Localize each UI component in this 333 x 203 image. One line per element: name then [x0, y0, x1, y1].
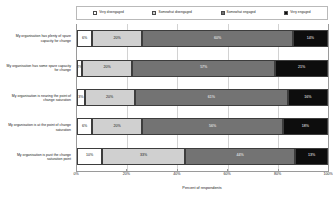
bar-segment[interactable]: 20% — [82, 60, 132, 77]
x-tick-label: 20% — [123, 172, 130, 176]
bar-segment-value-label: 20% — [114, 37, 121, 41]
legend-item[interactable]: Somewhat disengaged — [152, 11, 191, 15]
bar-row: 6%20%60%14% — [77, 30, 328, 47]
bar-segment-value-label: 6% — [82, 125, 87, 129]
stacked-bar-chart: Very disengagedSomewhat disengagedSomewh… — [0, 0, 333, 203]
bar-segment-value-label: 33% — [140, 154, 147, 158]
bar-segment[interactable]: 56% — [142, 118, 283, 135]
legend-label: Very engaged — [290, 11, 310, 14]
bar-segment[interactable]: 44% — [185, 148, 295, 165]
bar-segment-value-label: 60% — [214, 37, 221, 41]
bar-segment-value-label: 18% — [302, 125, 309, 129]
x-axis-title: Percent of respondents — [76, 186, 328, 190]
chart-legend: Very disengagedSomewhat disengagedSomewh… — [76, 6, 328, 20]
bar-segment-value-label: 21% — [298, 66, 305, 70]
bar-segment[interactable]: 10% — [77, 148, 102, 165]
category-label: My organisation has some spare capacity … — [2, 60, 74, 77]
bar-segment-value-label: 14% — [307, 37, 314, 41]
bar-segment[interactable]: 16% — [288, 89, 328, 106]
x-tick-label: 40% — [173, 172, 180, 176]
bar-rows: 6%20%60%14%2%20%57%21%3%20%61%16%6%20%56… — [77, 24, 328, 171]
category-axis-labels: My organisation has plenty of spare capa… — [2, 24, 74, 172]
category-label: My organisation is at the point of chang… — [2, 119, 74, 136]
bar-segment[interactable]: 6% — [77, 30, 92, 47]
bar-segment[interactable]: 20% — [85, 89, 135, 106]
bar-segment[interactable]: 33% — [102, 148, 185, 165]
bar-segment-value-label: 57% — [200, 66, 207, 70]
legend-swatch-icon — [93, 11, 97, 15]
bar-segment-value-label: 20% — [106, 96, 113, 100]
bar-segment-value-label: 13% — [308, 154, 315, 158]
bar-segment-value-label: 61% — [208, 96, 215, 100]
legend-item[interactable]: Very engaged — [284, 11, 310, 15]
bar-segment[interactable]: 18% — [283, 118, 328, 135]
x-tick-label: 0% — [73, 172, 78, 176]
bar-segment[interactable]: 61% — [135, 89, 288, 106]
category-label: My organisation is past the change satur… — [2, 149, 74, 166]
x-tick-label: 60% — [224, 172, 231, 176]
gridline — [328, 24, 329, 171]
x-tick-label: 100% — [323, 172, 332, 176]
bar-segment[interactable]: 20% — [92, 30, 142, 47]
legend-swatch-icon — [152, 11, 156, 15]
bar-segment[interactable]: 57% — [132, 60, 275, 77]
bar-segment-value-label: 56% — [209, 125, 216, 129]
bar-row: 10%33%44%13% — [77, 148, 328, 165]
bar-segment[interactable]: 14% — [293, 30, 328, 47]
legend-label: Somewhat disengaged — [158, 11, 191, 14]
bar-segment-value-label: 6% — [82, 37, 87, 41]
bar-segment-value-label: 10% — [86, 154, 93, 158]
bar-row: 3%20%61%16% — [77, 89, 328, 106]
bar-segment[interactable]: 20% — [92, 118, 142, 135]
bar-segment-value-label: 3% — [78, 96, 83, 100]
x-tick-label: 80% — [274, 172, 281, 176]
legend-swatch-icon — [284, 11, 288, 15]
bar-segment[interactable]: 6% — [77, 118, 92, 135]
bar-segment[interactable]: 60% — [142, 30, 293, 47]
bar-segment[interactable]: 3% — [77, 89, 85, 106]
bar-segment-value-label: 20% — [104, 66, 111, 70]
legend-swatch-icon — [221, 11, 225, 15]
legend-item[interactable]: Very disengaged — [93, 11, 124, 15]
bar-segment-value-label: 20% — [114, 125, 121, 129]
bar-row: 6%20%56%18% — [77, 118, 328, 135]
bar-segment-value-label: 16% — [304, 96, 311, 100]
legend-label: Very disengaged — [99, 11, 124, 14]
plot-area: 6%20%60%14%2%20%57%21%3%20%61%16%6%20%56… — [76, 24, 328, 172]
legend-label: Somewhat engaged — [227, 11, 256, 14]
bar-segment[interactable]: 21% — [275, 60, 328, 77]
bar-segment-value-label: 44% — [237, 154, 244, 158]
legend-item[interactable]: Somewhat engaged — [221, 11, 256, 15]
x-axis-ticks: 0%20%40%60%80%100% — [76, 172, 328, 182]
category-label: My organisation is nearing the point of … — [2, 89, 74, 106]
bar-row: 2%20%57%21% — [77, 60, 328, 77]
bar-segment[interactable]: 13% — [295, 148, 328, 165]
category-label: My organisation has plenty of spare capa… — [2, 30, 74, 47]
